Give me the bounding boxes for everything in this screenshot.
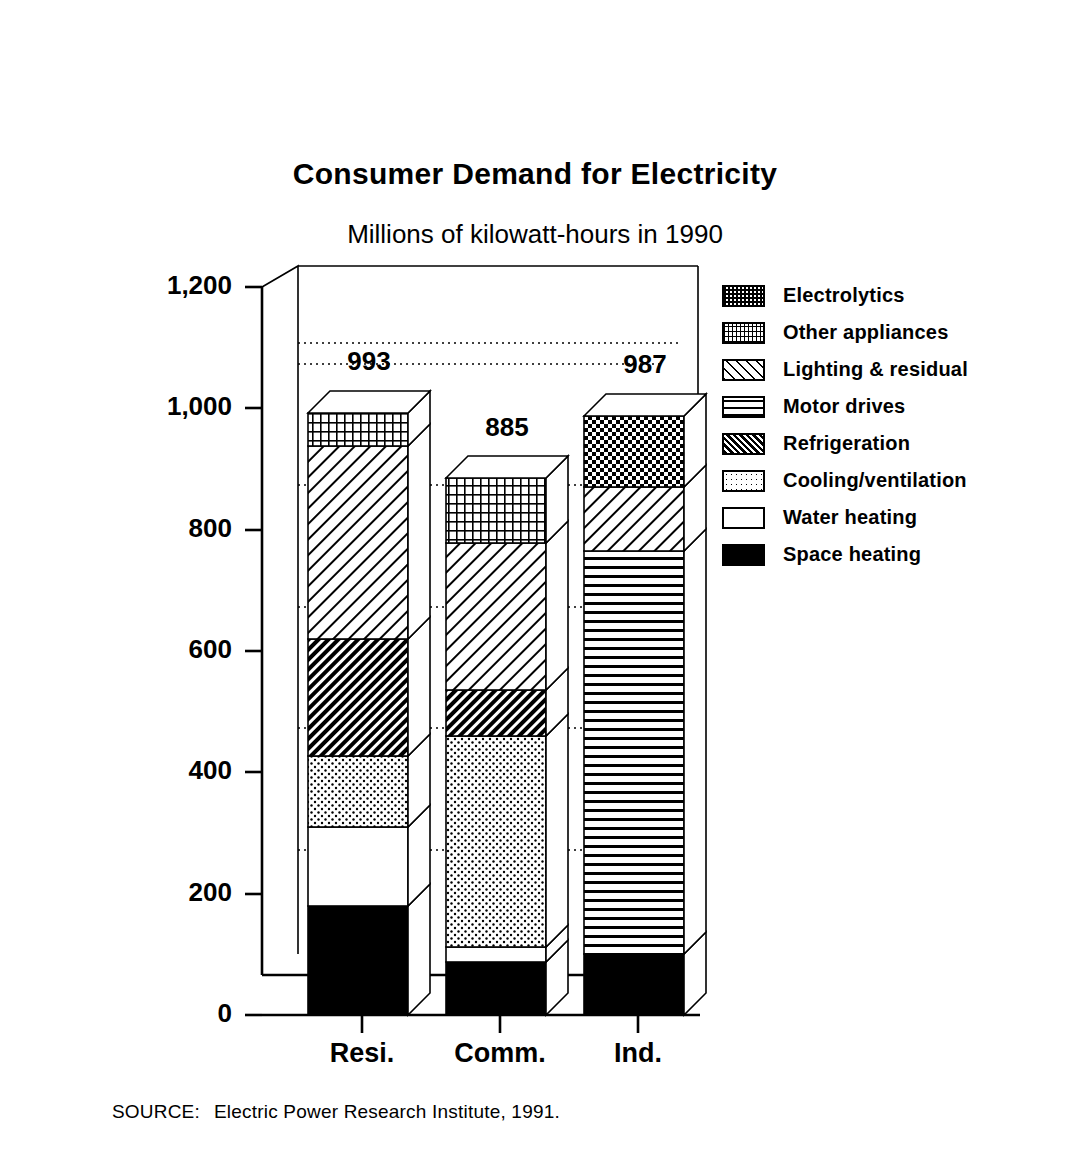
legend-label: Motor drives — [783, 395, 905, 418]
y-tick-label: 200 — [82, 877, 232, 908]
figure-root: Figure 4 Consumer Demand for Electricity… — [0, 0, 1080, 1162]
legend-label: Cooling/ventilation — [783, 469, 967, 492]
legend-swatch-cooling-ventilation — [722, 470, 765, 492]
y-tick-label: 400 — [82, 755, 232, 786]
x-tick-label-resi: Resi. — [282, 1038, 442, 1069]
legend-swatch-space-heating — [722, 544, 765, 566]
legend-item-lighting-residual: Lighting & residual — [722, 351, 1022, 388]
x-tick-label-ind: Ind. — [558, 1038, 718, 1069]
legend-swatch-lighting-residual — [722, 359, 765, 381]
legend-item-cooling-ventilation: Cooling/ventilation — [722, 462, 1022, 499]
source-text: Electric Power Research Institute, 1991. — [214, 1101, 560, 1122]
legend-swatch-electrolytics — [722, 285, 765, 307]
bar-comm — [446, 456, 568, 1015]
legend-label: Water heating — [783, 506, 917, 529]
legend-label: Space heating — [783, 543, 921, 566]
legend-swatch-refrigeration — [722, 433, 765, 455]
source-label: SOURCE: — [112, 1101, 200, 1122]
legend-item-motor-drives: Motor drives — [722, 388, 1022, 425]
legend-swatch-motor-drives — [722, 396, 765, 418]
bar-total-resi: 993 — [294, 346, 444, 377]
legend-swatch-water-heating — [722, 507, 765, 529]
legend-item-electrolytics: Electrolytics — [722, 277, 1022, 314]
legend-label: Electrolytics — [783, 284, 905, 307]
legend-item-space-heating: Space heating — [722, 536, 1022, 573]
y-tick-label: 600 — [82, 634, 232, 665]
x-tick-label-comm: Comm. — [420, 1038, 580, 1069]
legend-label: Lighting & residual — [783, 358, 968, 381]
chart-legend: Electrolytics Other appliances Lighting … — [722, 277, 1022, 573]
bar-resi — [308, 391, 430, 1015]
legend-label: Other appliances — [783, 321, 948, 344]
bar-total-comm: 885 — [432, 412, 582, 443]
legend-item-water-heating: Water heating — [722, 499, 1022, 536]
y-tick-label: 800 — [82, 513, 232, 544]
legend-swatch-other-appliances — [722, 322, 765, 344]
y-tick-marks — [245, 287, 262, 1015]
bar-total-ind: 987 — [570, 349, 720, 380]
legend-item-refrigeration: Refrigeration — [722, 425, 1022, 462]
x-tick-marks — [362, 1015, 638, 1033]
legend-label: Refrigeration — [783, 432, 910, 455]
source-note: SOURCE:Electric Power Research Institute… — [112, 1101, 560, 1123]
y-tick-label: 1,200 — [82, 270, 232, 301]
y-tick-label: 1,000 — [82, 391, 232, 422]
bar-ind — [584, 394, 706, 1015]
legend-item-other-appliances: Other appliances — [722, 314, 1022, 351]
y-tick-label: 0 — [82, 998, 232, 1029]
figure-body: Consumer Demand for Electricity Millions… — [40, 44, 1030, 1096]
